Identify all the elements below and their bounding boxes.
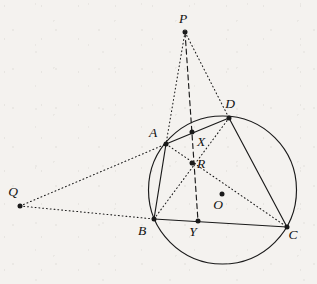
segment-py bbox=[185, 32, 198, 221]
label-d: D bbox=[224, 96, 235, 111]
point-o bbox=[220, 192, 225, 197]
point-y bbox=[196, 219, 201, 224]
geometry-figure: PDAXRQOBYC bbox=[0, 0, 317, 284]
label-p: P bbox=[178, 11, 187, 26]
geometry-canvas: PDAXRQOBYC bbox=[0, 0, 317, 284]
label-a: A bbox=[148, 125, 158, 140]
point-q bbox=[18, 204, 23, 209]
segment-ac bbox=[166, 144, 287, 227]
circumcircle bbox=[149, 116, 297, 264]
point-p bbox=[183, 30, 188, 35]
point-x bbox=[190, 130, 195, 135]
segment-pa bbox=[166, 32, 185, 144]
label-q: Q bbox=[8, 184, 18, 199]
segment-dc bbox=[229, 118, 287, 227]
label-b: B bbox=[138, 223, 146, 238]
point-r bbox=[190, 161, 195, 166]
point-a bbox=[164, 142, 169, 147]
point-labels-group: PDAXRQOBYC bbox=[8, 11, 298, 242]
segment-ab bbox=[154, 144, 166, 219]
label-c: C bbox=[288, 227, 298, 242]
segment-qa bbox=[20, 144, 166, 206]
circle-group bbox=[149, 116, 297, 264]
label-o: O bbox=[213, 197, 223, 212]
label-r: R bbox=[196, 156, 206, 171]
point-d bbox=[227, 116, 232, 121]
label-x: X bbox=[196, 134, 206, 149]
point-b bbox=[152, 217, 157, 222]
segment-pd bbox=[185, 32, 229, 118]
segment-bc bbox=[154, 219, 287, 227]
label-y: Y bbox=[189, 224, 198, 239]
segment-qb bbox=[20, 206, 154, 219]
